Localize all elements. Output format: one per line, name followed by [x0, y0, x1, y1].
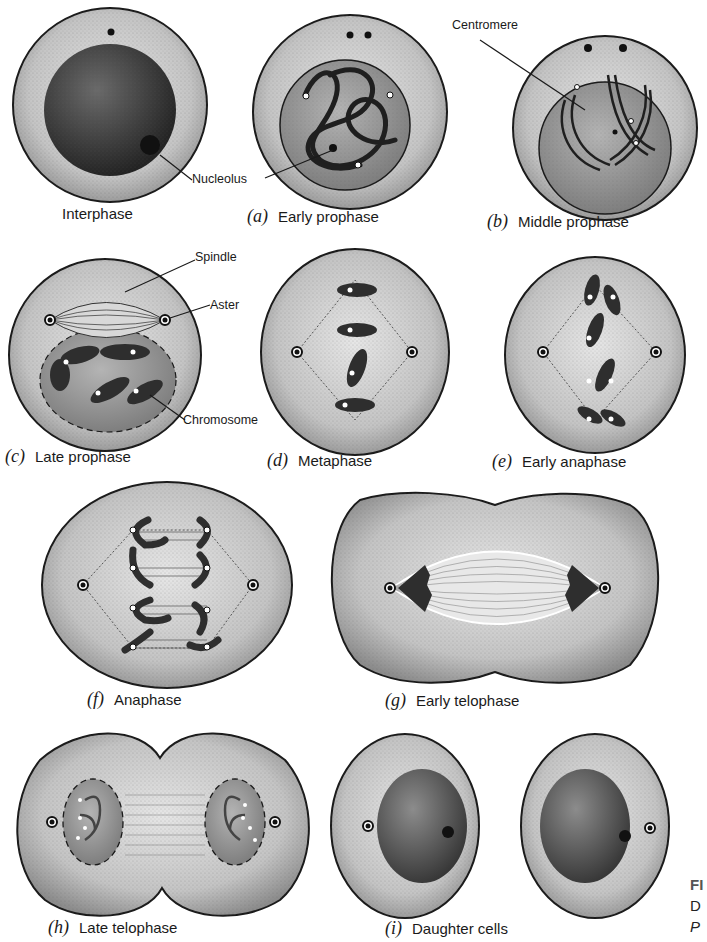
cell-late-telophase: [17, 733, 309, 915]
stage-letter: (i): [385, 918, 402, 938]
cell-daughter-right: [521, 734, 669, 918]
stage-letter: (f): [87, 689, 104, 709]
stage-name: Late telophase: [79, 919, 177, 936]
callout-nucleolus: Nucleolus: [192, 172, 247, 186]
stage-name: Metaphase: [298, 452, 372, 469]
cell-early-telophase: [332, 493, 658, 683]
cell-metaphase: [261, 249, 449, 455]
stage-letter: (e): [492, 451, 512, 471]
callout-centromere: Centromere: [452, 18, 518, 32]
stage-name: Middle prophase: [518, 213, 629, 230]
stage-label-metaphase: (d)Metaphase: [267, 450, 372, 471]
stage-label-interphase: Interphase: [62, 205, 133, 222]
caption-fragment-line2: D: [690, 897, 701, 914]
stage-letter: (h): [48, 917, 69, 937]
stage-label-middle-prophase: (b)Middle prophase: [487, 211, 629, 232]
caption-fragment-line3: P: [690, 918, 700, 935]
stage-name: Early anaphase: [522, 453, 626, 470]
stage-name: Early prophase: [278, 208, 379, 225]
stage-label-late-telophase: (h)Late telophase: [48, 917, 177, 938]
stage-name: Anaphase: [114, 691, 182, 708]
cell-late-prophase: [9, 259, 210, 451]
stage-label-early-telophase: (g)Early telophase: [385, 690, 519, 711]
stage-letter: (d): [267, 450, 288, 470]
stage-label-daughter-cells: (i)Daughter cells: [385, 918, 508, 939]
cell-daughter-left: [331, 734, 479, 918]
callout-aster: Aster: [210, 298, 239, 312]
stage-letter: (g): [385, 690, 406, 710]
callout-spindle: Spindle: [195, 250, 237, 264]
stage-label-early-anaphase: (e)Early anaphase: [492, 451, 626, 472]
stage-name: Daughter cells: [412, 920, 508, 937]
stage-letter: (b): [487, 211, 508, 231]
cell-anaphase: [42, 482, 292, 688]
cell-early-prophase: [253, 15, 447, 209]
stage-name: Interphase: [62, 205, 133, 222]
stage-label-anaphase: (f)Anaphase: [87, 689, 182, 710]
caption-fragment-line1: FI: [690, 876, 703, 893]
stage-label-early-prophase: (a)Early prophase: [247, 206, 379, 227]
stage-name: Late prophase: [35, 448, 131, 465]
stage-name: Early telophase: [416, 692, 519, 709]
stage-label-late-prophase: (c)Late prophase: [5, 446, 131, 467]
cell-early-anaphase: [505, 257, 685, 453]
cell-interphase: [13, 8, 207, 202]
stage-letter: (a): [247, 206, 268, 226]
stage-letter: (c): [5, 446, 25, 466]
cell-middle-prophase: [480, 36, 697, 220]
callout-chromosome: Chromosome: [183, 413, 258, 427]
